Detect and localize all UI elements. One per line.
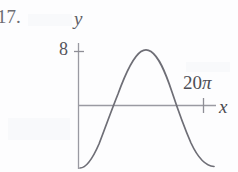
- sinusoid-curve: [80, 50, 214, 168]
- figure-container: 17. y x 8 20π: [0, 0, 238, 172]
- plot-area: [0, 0, 238, 172]
